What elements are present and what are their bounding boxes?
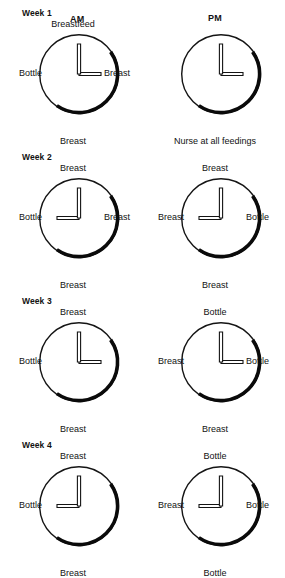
week-label: Week 3 <box>22 296 52 306</box>
dial-label-left: Breast <box>158 213 184 222</box>
week-label: Week 2 <box>22 152 52 162</box>
dial-label-bottom: Breast <box>150 281 280 290</box>
week-row: Week 3 Breast Bottle Breast Bottle Breas… <box>0 296 285 441</box>
dial-label-top: Breast <box>8 452 138 461</box>
dial-label-right: Breast <box>104 213 130 222</box>
dial-label-top: Breast <box>8 308 138 317</box>
clock-week4-am: Breast Bottle Breast <box>8 450 138 578</box>
weaning-schedule-figure: AM PM Week 1 Breastfeed Bottle Breast Br… <box>0 0 285 578</box>
dial-label-left: Breast <box>158 357 184 366</box>
week-row: Week 2 Breast Bottle Breast Breast Breas… <box>0 152 285 297</box>
week-label: Week 4 <box>22 440 52 450</box>
clock-week1-pm: Nurse at all feedings <box>150 18 280 150</box>
dial-label-left: Bottle <box>19 213 42 222</box>
dial-label-right: Breast <box>104 69 130 78</box>
dial-label-right: Bottle <box>246 357 269 366</box>
dial-label-bottom: Breast <box>150 425 280 434</box>
week-row: Week 4 Breast Bottle Breast Bottle Breas… <box>0 440 285 578</box>
dial-label-bottom: Breast <box>8 425 138 434</box>
dial-label-left: Breast <box>158 501 184 510</box>
dial-label-bottom: Breast <box>8 137 138 146</box>
week-label: Week 1 <box>22 8 52 18</box>
clock-week3-am: Breast Bottle Breast <box>8 306 138 438</box>
clock-dial <box>39 466 119 546</box>
dial-label-left: Bottle <box>19 501 42 510</box>
dial-label-top: Breast <box>8 164 138 173</box>
dial-label-right: Bottle <box>246 213 269 222</box>
dial-label-bottom: Breast <box>8 569 138 578</box>
clock-week2-pm: Breast Breast Bottle Breast <box>150 162 280 294</box>
dial-label-top: Bottle <box>150 452 280 461</box>
clock-week1-am: Breastfeed Bottle Breast Breast <box>8 18 138 150</box>
dial-label-top: Bottle <box>150 308 280 317</box>
week-row: Week 1 Breastfeed Bottle Breast Breast N… <box>0 8 285 153</box>
clock-dial <box>181 34 261 114</box>
dial-label-top: Breastfeed <box>8 20 138 29</box>
clock-week2-am: Breast Bottle Breast Breast <box>8 162 138 294</box>
clock-dial <box>39 322 119 402</box>
dial-label-bottom: Breast <box>8 281 138 290</box>
dial-label-left: Bottle <box>19 69 42 78</box>
clock-week4-pm: Bottle Breast Bottle Bottle <box>150 450 280 578</box>
clock-week3-pm: Bottle Breast Bottle Breast <box>150 306 280 438</box>
dial-label-left: Bottle <box>19 357 42 366</box>
dial-label-bottom: Bottle <box>150 569 280 578</box>
dial-label-right: Bottle <box>246 501 269 510</box>
dial-caption: Nurse at all feedings <box>150 137 280 146</box>
dial-label-top: Breast <box>150 164 280 173</box>
